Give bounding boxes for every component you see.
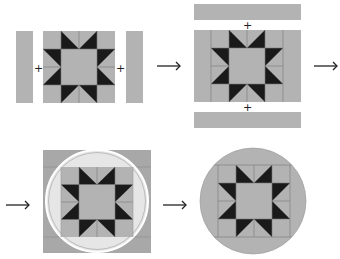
arrow-icon	[157, 62, 180, 70]
plus-sign: +	[34, 62, 43, 75]
arrow-icon	[314, 62, 337, 70]
star-block	[43, 31, 115, 103]
plus-sign: +	[116, 62, 125, 75]
star-block	[211, 30, 283, 102]
step-3	[43, 150, 151, 253]
step-1: + +	[16, 31, 143, 103]
arrow-icon	[6, 201, 29, 209]
step-2: + +	[194, 4, 301, 128]
right-strip	[126, 31, 143, 103]
bottom-strip	[194, 112, 301, 128]
arrow-icon	[163, 201, 186, 209]
star-block	[218, 165, 290, 237]
quilt-diagram: .fab { fill:#b3b3b3; } .st { fill:#1a1a1…	[0, 0, 340, 259]
faded-star-block	[61, 167, 133, 237]
step-4	[195, 145, 315, 259]
top-strip	[194, 4, 301, 20]
left-strip	[16, 31, 33, 103]
